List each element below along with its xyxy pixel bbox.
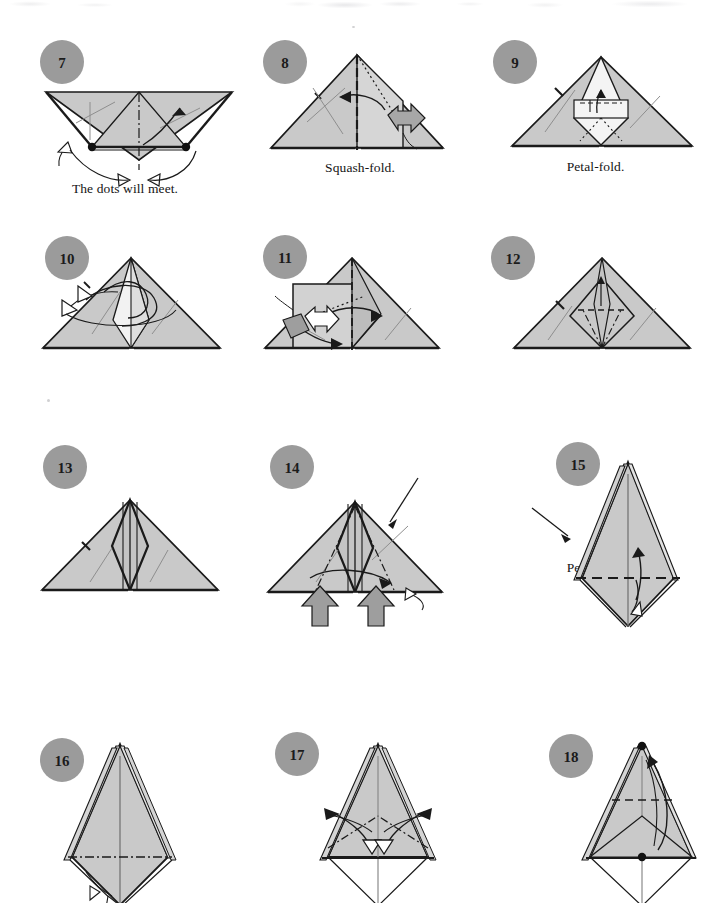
step-14-diagram: 14 [250,430,500,630]
step-badge-9: 9 [493,40,537,84]
step-11: 11 Squash [235,222,485,387]
step-badge-18: 18 [549,734,593,778]
step-16: 16 [0,720,250,903]
step-7-caption: The dots will meet. [0,180,250,198]
step-number-8: 8 [281,55,289,71]
step-9: 9 Petal-fold. [470,0,721,200]
step-15-diagram: 15 [470,430,721,630]
step-number-17: 17 [290,747,306,763]
step-badge-7: 7 [40,40,84,84]
step-17-diagram: 17 [250,720,500,903]
step-16-diagram: 16 [0,720,250,903]
step-number-13: 13 [58,460,73,476]
step-number-10: 10 [60,251,75,267]
step-badge-8: 8 [263,40,307,84]
step-8: 8 Squash-fold. [235,0,485,200]
step-12-diagram: 12 [470,222,721,387]
step-17: 17 [250,720,500,903]
step-10-diagram: 10 [0,222,250,387]
step-number-18: 18 [564,749,579,765]
step-18-diagram: 18 [470,720,721,903]
step-18: 18 [470,720,721,903]
step-13-diagram: 13 [0,430,250,610]
step-13: 13 Turn over and repeat steps 8–12. [0,430,250,610]
step-badge-15: 15 [556,442,600,486]
step-number-12: 12 [506,251,521,267]
step-number-16: 16 [55,753,71,769]
step-9-caption: Petal-fold. [470,158,721,176]
step-number-14: 14 [285,460,301,476]
step-badge-13: 13 [43,445,87,489]
step-badge-17: 17 [275,732,319,776]
instruction-sheet: 7 [0,0,721,903]
step-7: 7 [0,0,250,200]
step-number-11: 11 [278,250,292,266]
step-badge-11: 11 [263,235,307,279]
step-14: 14 [250,430,500,630]
step-number-9: 9 [511,55,519,71]
step-7-diagram: 7 [0,0,250,200]
step-10: 10 Double-unwrap-fold. [0,222,250,387]
step-badge-10: 10 [45,236,89,280]
step-badge-14: 14 [270,445,314,489]
step-8-caption: Squash-fold. [235,159,485,177]
step-badge-12: 12 [491,236,535,280]
step-badge-16: 16 [40,738,84,782]
step-12: 12 Petal-fold. [470,222,721,387]
step-number-7: 7 [58,55,66,71]
step-number-15: 15 [571,457,586,473]
step-15: 15 There is a horizontal creas [470,430,721,630]
step-11-diagram: 11 [235,222,485,387]
